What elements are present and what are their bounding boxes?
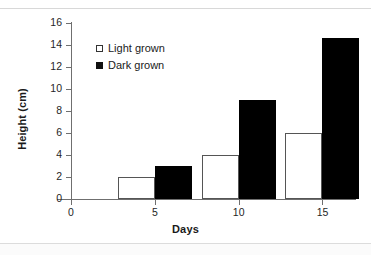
x-tick-label: 0 [56, 206, 86, 218]
bar-light-grown-day-15 [285, 133, 322, 199]
open-square-icon [96, 45, 103, 52]
x-tick-label: 10 [224, 206, 254, 218]
y-tick-label: 6 [36, 126, 62, 138]
x-axis-label: Days [0, 223, 371, 235]
y-tick-label: 4 [36, 148, 62, 160]
legend-label-dark-grown: Dark grown [108, 60, 164, 71]
bar-dark-grown-day-5 [155, 166, 192, 199]
chart-legend: Light grown Dark grown [96, 40, 165, 74]
x-tick-mark [71, 200, 72, 205]
y-tick-label: 14 [36, 38, 62, 50]
bar-dark-grown-day-15 [322, 38, 359, 199]
y-tick-label: 10 [36, 82, 62, 94]
bar-dark-grown-day-10 [239, 100, 276, 199]
bar-chart-figure: Height (cm) Days 0246810121416 051015 Li… [0, 9, 371, 243]
y-tick-label: 2 [36, 170, 62, 182]
x-tick-label: 5 [140, 206, 170, 218]
bar-light-grown-day-5 [118, 177, 155, 199]
y-tick-label: 16 [36, 16, 62, 28]
scan-band-bottom [0, 244, 371, 255]
x-tick-mark [239, 200, 240, 205]
legend-label-light-grown: Light grown [108, 43, 165, 54]
y-tick-label: 12 [36, 60, 62, 72]
x-tick-label: 15 [307, 206, 337, 218]
y-tick-label: 0 [36, 192, 62, 204]
legend-item-dark-grown: Dark grown [96, 57, 165, 74]
x-axis-line [57, 199, 356, 200]
legend-item-light-grown: Light grown [96, 40, 165, 57]
x-tick-mark [155, 200, 156, 205]
y-tick-label: 8 [36, 104, 62, 116]
bar-light-grown-day-10 [202, 155, 239, 199]
x-tick-mark [322, 200, 323, 205]
filled-square-icon [96, 62, 103, 69]
y-axis-label: Height (cm) [16, 84, 28, 154]
